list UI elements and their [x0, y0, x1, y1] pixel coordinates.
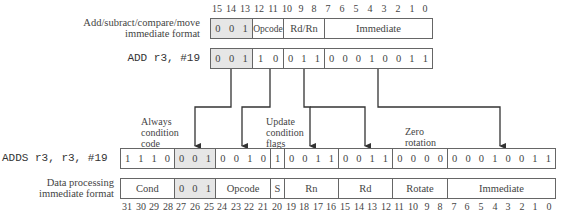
bit-number: 5 — [474, 201, 488, 212]
bit-number: 21 — [256, 201, 270, 212]
annotation-zero-rotation: Zero rotation — [405, 126, 436, 148]
instr-field-opcode: 0 0 1 0 — [215, 148, 271, 169]
field-rd: Rd — [338, 178, 393, 199]
arrow-rn — [304, 69, 310, 146]
bit-number: 1 — [528, 201, 542, 212]
bit-number: 4 — [488, 201, 502, 212]
field-op-bits: 0 0 1 — [174, 178, 216, 199]
bit-number: 27 — [174, 201, 188, 212]
field-rn: Rn — [284, 178, 339, 199]
bit-number: 12 — [379, 201, 393, 212]
bit-number: 13 — [365, 201, 379, 212]
field-immediate: Immediate — [447, 178, 556, 199]
instr-field-cond: 1 1 1 0 — [120, 148, 175, 169]
bit-number: 7 — [447, 201, 461, 212]
bit-number: 26 — [188, 201, 202, 212]
bit-number: 19 — [284, 201, 298, 212]
field-s: S — [270, 178, 285, 199]
bit-number: 25 — [202, 201, 216, 212]
field-opcode: Opcode — [215, 178, 271, 199]
arrow-op-bits — [195, 69, 231, 146]
field-cond: Cond — [120, 178, 175, 199]
bit-number: 31 — [120, 201, 134, 212]
bit-number: 29 — [147, 201, 161, 212]
bit-number: 23 — [229, 201, 243, 212]
bit-number: 9 — [420, 201, 434, 212]
bit-number: 6 — [460, 201, 474, 212]
field-rotate: Rotate — [392, 178, 448, 199]
bit-number: 28 — [161, 201, 175, 212]
bit-number: 3 — [501, 201, 515, 212]
bit-number: 24 — [215, 201, 229, 212]
bottom-format-label: Data processing immediate format — [4, 177, 114, 199]
instr-field-rn: 0 0 1 1 — [284, 148, 339, 169]
instr-field-immediate: 0 0 0 1 0 0 1 1 — [447, 148, 556, 169]
bit-number: 30 — [134, 201, 148, 212]
bit-number: 17 — [311, 201, 325, 212]
instr-field-rotate: 0 0 0 0 — [392, 148, 448, 169]
bit-number: 15 — [338, 201, 352, 212]
bit-number: 11 — [392, 201, 406, 212]
bit-number: 22 — [242, 201, 256, 212]
instr-field-op: 0 0 1 — [174, 148, 216, 169]
bit-number: 0 — [542, 201, 556, 212]
annotation-always-condition: Always condition code — [141, 116, 179, 149]
instr-field-rd: 0 0 1 1 — [338, 148, 393, 169]
bit-number: 16 — [324, 201, 338, 212]
bit-number: 20 — [270, 201, 284, 212]
annotation-update-flags: Update condition flags — [266, 116, 304, 149]
bit-number: 18 — [297, 201, 311, 212]
bit-number: 8 — [433, 201, 447, 212]
instr-field-s: 1 — [270, 148, 285, 169]
arrow-immediate — [378, 69, 500, 146]
arrow-rd — [310, 107, 365, 146]
bit-number: 2 — [515, 201, 529, 212]
bottom-instruction-text: ADDS r3, r3, #19 — [2, 152, 108, 164]
bit-number: 10 — [406, 201, 420, 212]
bit-number: 14 — [352, 201, 366, 212]
